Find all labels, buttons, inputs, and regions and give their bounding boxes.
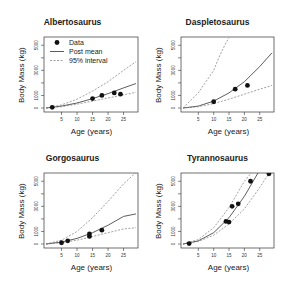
y-tick-label: 1000 bbox=[34, 90, 39, 101]
data-point bbox=[65, 238, 70, 243]
y-tick-label: 3000 bbox=[171, 201, 176, 212]
data-point bbox=[187, 241, 192, 246]
data-point bbox=[230, 204, 235, 209]
data-point bbox=[112, 91, 117, 96]
panel-gorgosaurus: Gorgosaurus Body Mass (kg) Age (years) 5… bbox=[0, 144, 145, 288]
y-tick-label: 5000 bbox=[34, 176, 39, 187]
x-tick-label: 10 bbox=[211, 253, 217, 258]
x-tick-label: 25 bbox=[121, 253, 127, 258]
y-tick-label: 1000 bbox=[171, 226, 176, 237]
y-tick-label: 3000 bbox=[171, 65, 176, 76]
y-tick-label: 5000 bbox=[171, 40, 176, 51]
panel-tyrannosaurus: Tyrannosaurus Body Mass (kg) Age (years)… bbox=[145, 144, 290, 288]
x-tick-label: 15 bbox=[227, 117, 233, 122]
data-point bbox=[59, 240, 64, 245]
data-point bbox=[248, 179, 253, 184]
y-tick-label: 0 bbox=[171, 106, 176, 109]
y-tick-label: 1000 bbox=[171, 90, 176, 101]
data-point bbox=[50, 105, 55, 110]
x-tick-label: 20 bbox=[106, 253, 112, 258]
data-point bbox=[118, 92, 123, 97]
x-tick-label: 20 bbox=[106, 117, 112, 122]
data-point bbox=[99, 93, 104, 98]
x-tick-label: 5 bbox=[197, 117, 200, 122]
data-point bbox=[99, 228, 104, 233]
x-tick-label: 15 bbox=[90, 117, 96, 122]
y-tick-label: 3000 bbox=[34, 65, 39, 76]
plot-area: 5101520250100030005000 bbox=[145, 144, 291, 288]
x-tick-label: 15 bbox=[90, 253, 96, 258]
data-point bbox=[236, 201, 241, 206]
x-tick-label: 10 bbox=[211, 117, 217, 122]
data-point bbox=[87, 232, 92, 237]
mean-curve bbox=[46, 84, 136, 109]
mean-curve bbox=[183, 53, 272, 108]
x-tick-label: 20 bbox=[242, 117, 248, 122]
x-tick-label: 10 bbox=[75, 253, 81, 258]
data-point bbox=[245, 83, 250, 88]
data-point bbox=[233, 87, 238, 92]
data-point bbox=[267, 171, 272, 176]
legend-point-icon bbox=[55, 40, 60, 45]
x-tick-label: 10 bbox=[75, 117, 81, 122]
plot-frame bbox=[181, 37, 274, 112]
y-tick-label: 0 bbox=[171, 242, 176, 245]
y-tick-label: 5000 bbox=[171, 176, 176, 187]
data-point bbox=[90, 96, 95, 101]
interval-curve bbox=[46, 62, 136, 108]
plot-area: 5101520250100030005000 bbox=[0, 144, 145, 288]
x-tick-label: 25 bbox=[257, 253, 263, 258]
interval-curve bbox=[183, 85, 272, 108]
y-tick-label: 3000 bbox=[34, 201, 39, 212]
data-point bbox=[227, 220, 232, 225]
x-tick-label: 20 bbox=[242, 253, 248, 258]
interval-curve bbox=[183, 38, 229, 108]
interval-curve bbox=[183, 170, 254, 244]
x-tick-label: 5 bbox=[60, 117, 63, 122]
x-tick-label: 5 bbox=[197, 253, 200, 258]
x-tick-label: 25 bbox=[121, 117, 127, 122]
interval-curve bbox=[183, 174, 269, 244]
legend-data: Data bbox=[69, 38, 108, 47]
legend-mean: Post mean bbox=[69, 47, 108, 56]
y-tick-label: 0 bbox=[34, 106, 39, 109]
y-tick-label: 1000 bbox=[34, 226, 39, 237]
plot-frame bbox=[181, 173, 274, 248]
panel-albertosaurus: Albertosaurus Body Mass (kg) Age (years)… bbox=[0, 0, 145, 144]
plot-area: 5101520250100030005000 bbox=[0, 0, 145, 144]
x-tick-label: 15 bbox=[227, 253, 233, 258]
data-point bbox=[211, 99, 216, 104]
legend-interval: 95% interval bbox=[69, 56, 108, 65]
y-tick-label: 0 bbox=[34, 242, 39, 245]
plot-area: 5101520250100030005000 bbox=[145, 0, 291, 144]
x-tick-label: 5 bbox=[60, 253, 63, 258]
x-tick-label: 25 bbox=[257, 117, 263, 122]
legend: Data Post mean 95% interval bbox=[69, 38, 108, 65]
y-tick-label: 5000 bbox=[34, 40, 39, 51]
panel-daspletosaurus: Daspletosaurus Body Mass (kg) Age (years… bbox=[145, 0, 290, 144]
